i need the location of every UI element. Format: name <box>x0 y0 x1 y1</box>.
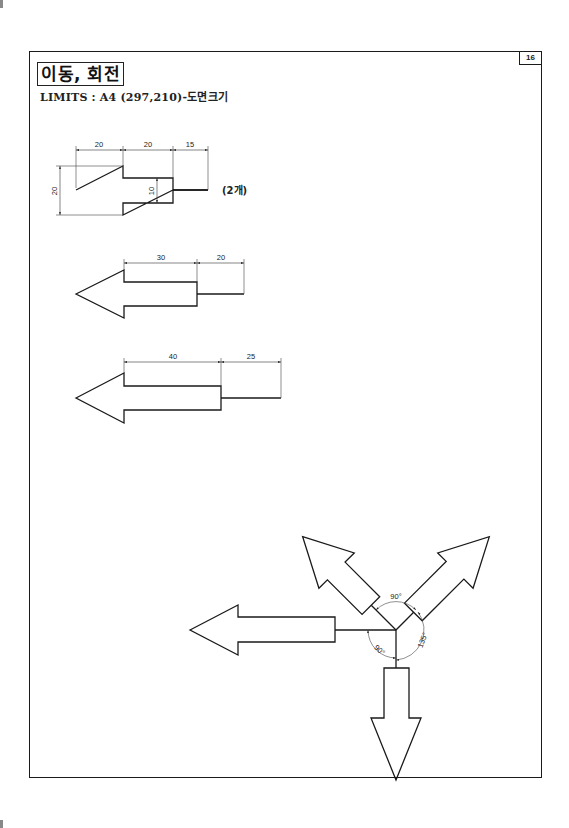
arrow-3: 40 25 <box>76 352 281 423</box>
dim-shaft-length: 20 <box>144 140 152 149</box>
dim-head-length: 20 <box>95 140 103 149</box>
dim-tail-length: 20 <box>217 253 225 262</box>
arrow-1: 20 20 15 20 10 (2개) <box>50 140 247 215</box>
rotated-arrow-down <box>371 668 421 780</box>
dim-tail-length: 25 <box>247 352 255 361</box>
dim-head-width: 20 <box>50 187 59 195</box>
rotation-figure: 90° 90° 135° <box>190 519 507 780</box>
rotated-arrow-upper-right <box>378 519 507 648</box>
dim-tail-length: 15 <box>186 140 194 149</box>
rotated-arrow-left <box>190 605 335 655</box>
angle-label-left-bottom: 90° <box>372 643 386 657</box>
arrow-2: 30 20 <box>76 253 244 318</box>
dim-shaft-length: 40 <box>169 352 177 361</box>
dim-shaft-width: 10 <box>147 187 156 195</box>
drawing-canvas: 20 20 15 20 10 (2개) 30 20 <box>0 0 569 828</box>
arrow-1-dimension-lines <box>60 150 208 215</box>
rotated-arrow-upper-left <box>285 519 414 648</box>
angle-label-right: 135° <box>416 631 430 649</box>
arrow-1-extension-lines <box>56 146 208 215</box>
dim-shaft-length: 30 <box>157 253 165 262</box>
angle-label-top: 90° <box>390 592 401 601</box>
quantity-note: (2개) <box>222 184 247 196</box>
